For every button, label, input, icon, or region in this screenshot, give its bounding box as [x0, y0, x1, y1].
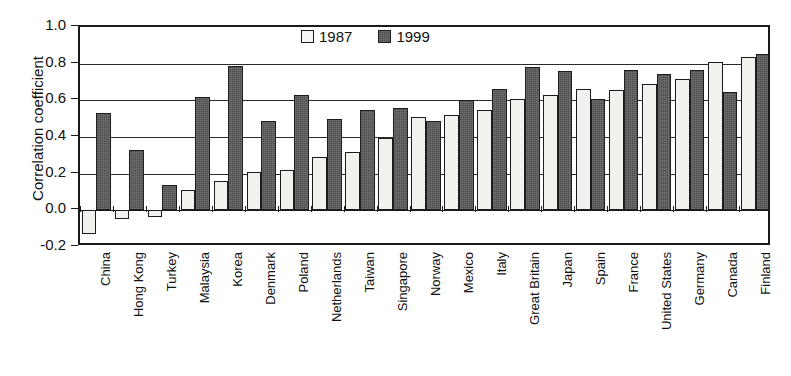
bar-malaysia-1987 [181, 190, 196, 210]
bars-layer [80, 27, 768, 243]
bar-norway-1987 [411, 117, 426, 211]
x-tick-mark [541, 206, 542, 212]
bar-great-britain-1987 [510, 99, 525, 211]
bar-mexico-1987 [444, 115, 459, 210]
category-label-malaysia: Malaysia [198, 252, 211, 303]
bar-italy-1987 [477, 110, 492, 210]
bar-canada-1999 [723, 92, 738, 210]
category-label-finland: Finland [759, 252, 772, 295]
y-tick-label: 0.0 [6, 200, 66, 215]
category-label-mexico: Mexico [462, 252, 475, 293]
bar-great-britain-1999 [525, 67, 540, 210]
bar-united-states-1999 [657, 74, 672, 211]
bar-france-1999 [624, 70, 639, 210]
bar-germany-1999 [690, 70, 705, 210]
bar-korea-1999 [228, 66, 243, 211]
chart-legend: 1987 1999 [297, 28, 434, 45]
y-tick-mark [71, 208, 78, 209]
bar-poland-1987 [280, 170, 295, 210]
x-tick-mark [442, 206, 443, 212]
category-label-china: China [99, 252, 112, 286]
bar-finland-1999 [756, 54, 768, 211]
bar-poland-1999 [294, 95, 309, 211]
bar-china-1999 [96, 113, 111, 210]
dark-square-swatch-icon [378, 30, 391, 43]
category-label-united-states: United States [660, 252, 673, 330]
category-label-italy: Italy [495, 252, 508, 276]
x-tick-mark [245, 206, 246, 212]
x-tick-mark [179, 206, 180, 212]
legend-label-1987: 1987 [319, 29, 352, 44]
x-tick-mark [410, 206, 411, 212]
category-label-netherlands: Netherlands [330, 252, 343, 322]
bar-france-1987 [609, 90, 624, 210]
bar-malaysia-1999 [195, 97, 210, 211]
category-label-japan: Japan [561, 252, 574, 287]
y-tick-mark [71, 135, 78, 136]
x-tick-mark [640, 206, 641, 212]
y-tick-mark [71, 62, 78, 63]
category-label-taiwan: Taiwan [363, 252, 376, 292]
x-tick-mark [278, 206, 279, 212]
category-label-korea: Korea [231, 252, 244, 287]
bar-united-states-1987 [642, 84, 657, 211]
y-tick-label: 0.2 [6, 164, 66, 179]
x-tick-mark [739, 206, 740, 212]
category-label-norway: Norway [429, 252, 442, 296]
x-tick-mark [574, 206, 575, 212]
bar-germany-1987 [675, 79, 690, 210]
category-label-singapore: Singapore [396, 252, 409, 311]
y-tick-label: 0.4 [6, 127, 66, 142]
y-tick-mark [71, 172, 78, 173]
bar-japan-1987 [543, 95, 558, 211]
bar-mexico-1999 [459, 100, 474, 210]
bar-denmark-1987 [247, 172, 262, 211]
x-tick-mark [311, 206, 312, 212]
x-tick-mark [673, 206, 674, 212]
bar-spain-1987 [576, 89, 591, 210]
x-tick-mark [377, 206, 378, 212]
bar-netherlands-1987 [312, 157, 327, 210]
bar-korea-1987 [214, 181, 229, 210]
y-tick-mark [71, 98, 78, 99]
bar-taiwan-1999 [360, 110, 375, 211]
bar-denmark-1999 [261, 121, 276, 211]
bar-singapore-1987 [378, 138, 393, 210]
category-label-denmark: Denmark [264, 252, 277, 305]
correlation-coefficient-bar-chart: Correlation coefficient 1.00.80.60.40.20… [0, 0, 791, 376]
legend-label-1999: 1999 [396, 29, 429, 44]
bar-netherlands-1999 [327, 119, 342, 211]
bar-hong-kong-1999 [129, 150, 144, 211]
bar-norway-1999 [426, 121, 441, 210]
category-label-spain: Spain [594, 252, 607, 285]
bar-china-1987 [82, 210, 97, 234]
bar-turkey-1987 [148, 210, 163, 216]
bar-turkey-1999 [162, 185, 177, 211]
x-tick-mark [475, 206, 476, 212]
category-label-canada: Canada [726, 252, 739, 298]
category-label-turkey: Turkey [165, 252, 178, 291]
legend-item-1999: 1999 [378, 29, 429, 44]
x-tick-mark [212, 206, 213, 212]
bar-singapore-1999 [393, 108, 408, 211]
category-label-hong-kong: Hong Kong [132, 252, 145, 317]
category-label-poland: Poland [297, 252, 310, 292]
y-tick-mark [71, 25, 78, 26]
y-tick-label: -0.2 [6, 237, 66, 252]
x-tick-mark [607, 206, 608, 212]
x-tick-mark [113, 206, 114, 212]
bar-canada-1987 [708, 62, 723, 211]
bar-taiwan-1987 [345, 152, 360, 211]
y-tick-label: 0.6 [6, 90, 66, 105]
bar-hong-kong-1987 [115, 210, 130, 219]
bar-italy-1999 [492, 89, 507, 210]
y-tick-mark [71, 245, 78, 246]
x-tick-mark [146, 206, 147, 212]
category-label-germany: Germany [693, 252, 706, 305]
bar-spain-1999 [591, 99, 606, 211]
bar-finland-1987 [741, 57, 756, 210]
x-tick-mark [508, 206, 509, 212]
x-tick-mark [80, 206, 81, 212]
y-tick-label: 0.8 [6, 54, 66, 69]
y-tick-label: 1.0 [6, 17, 66, 32]
